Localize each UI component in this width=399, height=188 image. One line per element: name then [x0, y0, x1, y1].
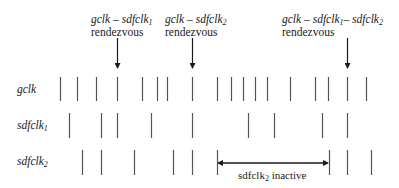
- label-sep: –: [343, 13, 352, 25]
- label-sep: –: [184, 13, 196, 25]
- label-sep: –: [110, 13, 122, 25]
- rendezvous-label-3: gclk – sdfclk1– sdfclk2 rendezvous: [282, 13, 383, 39]
- label-sep: –: [301, 13, 313, 25]
- label-sdfclk: sdfclk: [352, 13, 379, 25]
- row-label-sdfclk1: sdfclk1: [17, 119, 48, 131]
- label-sub: 1: [148, 18, 152, 27]
- label-rendezvous: rendezvous: [282, 26, 334, 38]
- rendezvous-label-2: gclk – sdfclk2 rendezvous: [165, 13, 226, 39]
- inactive-clock: sdfclk: [238, 169, 265, 181]
- row-name: sdfclk: [17, 119, 44, 131]
- inactive-label: sdfclk2 inactive: [238, 169, 306, 182]
- row-name: gclk: [17, 83, 36, 95]
- label-gclk: gclk: [91, 13, 110, 25]
- row-label-sdfclk2: sdfclk2: [17, 155, 48, 167]
- label-gclk: gclk: [165, 13, 184, 25]
- clock-ticks: [61, 77, 372, 175]
- label-gclk: gclk: [282, 13, 301, 25]
- label-rendezvous: rendezvous: [165, 26, 217, 38]
- row-sub: 1: [44, 124, 48, 133]
- label-sub: 2: [379, 18, 383, 27]
- rendezvous-arrows: [118, 38, 348, 68]
- label-rendezvous: rendezvous: [91, 26, 143, 38]
- label-sdfclk: sdfclk: [313, 13, 340, 25]
- label-sdfclk: sdfclk: [122, 13, 149, 25]
- row-name: sdfclk: [17, 155, 44, 167]
- row-label-gclk: gclk: [17, 83, 36, 95]
- inactive-text: inactive: [269, 169, 307, 181]
- rendezvous-label-1: gclk – sdfclk1 rendezvous: [91, 13, 152, 39]
- label-sdfclk: sdfclk: [196, 13, 223, 25]
- label-sub: 2: [222, 18, 226, 27]
- row-sub: 2: [44, 160, 48, 169]
